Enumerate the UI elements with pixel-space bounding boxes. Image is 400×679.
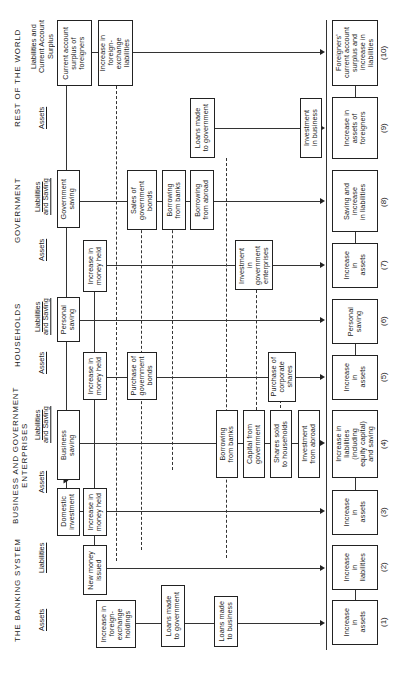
box-shares-sold-to-households: Shares sold to households (270, 410, 292, 478)
sector-title-government: GOVERNMENT (14, 165, 23, 255)
box-biz-increase-in-money-held: Increase in money held (83, 488, 107, 536)
banking-liabilities-header: Liabilities (38, 538, 46, 578)
total-num-9: (9) (380, 116, 389, 141)
row-assets-header: Assets (38, 100, 46, 135)
arrow-to-total-10 (320, 49, 325, 55)
box-sales-of-government-bonds: Sales of government bonds (127, 170, 157, 230)
arrow-to-total-1 (320, 620, 325, 626)
sector-title-banking: THE BANKING SYSTEM (14, 520, 23, 660)
total-num-4: (4) (380, 432, 389, 457)
sector-title-households: HOUSEHOLDS (14, 290, 23, 380)
total-num-1: (1) (380, 610, 389, 635)
total-num-8: (8) (380, 190, 389, 215)
business-liabilities-header: Liabilities and Saving (34, 400, 51, 450)
households-assets-header: Assets (38, 345, 46, 380)
box-loans-made-to-business: Loans made to business (214, 596, 238, 647)
sector-title-business: BUSINESS AND GOVERNMENT ENTERPRISES (12, 385, 30, 525)
arrow-to-total-2 (320, 565, 325, 571)
arrow-to-total-4 (320, 440, 325, 446)
business-assets-header: Assets (38, 462, 46, 502)
box-investment-in-government-enterprises: Investment in government enterprises (235, 240, 273, 290)
row-liabilities-header: Liabilities and Current Account Surplus (30, 14, 55, 79)
box-new-money-issued: New money issued (83, 545, 107, 595)
total-box-6: Personal saving (332, 299, 378, 344)
box-fx-liabilities: Increase in foreign- exchange liabilitie… (98, 20, 133, 86)
total-box-2: Increase in liabilities (332, 545, 378, 590)
total-num-3: (3) (380, 500, 389, 525)
box-investment-in-business: Investment in business (300, 98, 322, 158)
total-box-7: Increase in assets (332, 243, 378, 288)
box-purchase-of-corporate-shares: Purchase of corporate shares (268, 352, 296, 402)
total-box-1: Increase in assets (332, 600, 378, 645)
box-business-saving: Business saving (57, 410, 80, 480)
box-borrowing-from-abroad: Borrowing from abroad (190, 170, 214, 230)
total-num-7: (7) (380, 253, 389, 278)
arrow-to-total-7 (320, 262, 325, 268)
box-fx-holdings: Increase in foreign- exchange holdings (96, 600, 136, 648)
box-domestic-investment: Domestic investment (57, 488, 80, 536)
box-borrowing-from-banks-biz: Borrowing from banks (216, 410, 238, 478)
government-assets-header: Assets (38, 232, 46, 267)
total-num-2: (2) (380, 555, 389, 580)
total-box-5: Increase in assets (332, 355, 378, 400)
total-box-8: Saving and increase in liabilities (332, 170, 378, 232)
total-box-3: Increase in assets (332, 490, 378, 535)
total-box-4: Increase in liabilities (including equit… (332, 410, 378, 478)
box-borrowing-from-banks-gov: Borrowing from banks (162, 170, 186, 230)
arrow-to-total-8 (320, 198, 325, 204)
flow-of-funds-diagram: THE BANKING SYSTEM Assets Liabilities BU… (0, 0, 400, 679)
box-capital-from-government: Capital from government (243, 410, 265, 478)
arrow-to-total-6 (320, 317, 325, 323)
government-liabilities-header: Liabilities and Saving (34, 172, 51, 222)
box-current-account-surplus: Current account surplus of foreigners (57, 20, 92, 86)
banking-assets-header: Assets (38, 600, 46, 640)
arrow-to-total-5 (320, 374, 325, 380)
total-num-5: (5) (380, 365, 389, 390)
box-purchase-of-government-bonds: Purchase of government bonds (127, 352, 157, 400)
box-government-saving: Government saving (57, 170, 80, 228)
total-num-10: (10) (380, 40, 389, 65)
total-box-9: Increase in assets of foreigners (332, 97, 378, 159)
box-gov-increase-in-money-held: Increase in money held (83, 240, 107, 292)
totals-spine (326, 20, 327, 650)
box-loans-made-to-government-bank: Loans made to government (161, 585, 185, 647)
box-loans-made-to-government-row: Loans made to government (190, 98, 215, 158)
box-personal-saving: Personal saving (57, 297, 80, 342)
box-hh-increase-in-money-held: Increase in money held (83, 352, 107, 400)
total-num-6: (6) (380, 309, 389, 334)
box-investment-from-abroad: Investment from abroad (298, 410, 320, 478)
total-box-10: Foreigners' current account surplus and … (332, 20, 378, 86)
arrow-to-total-3 (320, 508, 325, 514)
sector-title-rest-of-world: REST OF THE WORLD (14, 18, 23, 138)
households-liabilities-header: Liabilities and Saving (34, 292, 51, 342)
